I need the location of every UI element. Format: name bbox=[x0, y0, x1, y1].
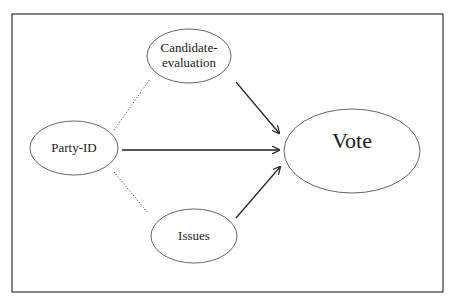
partyid-label: Party-ID bbox=[51, 140, 97, 155]
path-diagram: Candidate- evaluation Party-ID Issues Vo… bbox=[0, 0, 455, 298]
candidate-label-line2: evaluation bbox=[162, 55, 217, 70]
node-vote: Vote bbox=[284, 109, 420, 193]
candidate-label-line1: Candidate- bbox=[160, 40, 217, 55]
node-issues: Issues bbox=[151, 209, 237, 263]
issues-label: Issues bbox=[178, 228, 210, 243]
node-party-id: Party-ID bbox=[30, 121, 118, 175]
node-candidate-evaluation: Candidate- evaluation bbox=[147, 29, 231, 83]
vote-label: Vote bbox=[332, 128, 372, 153]
